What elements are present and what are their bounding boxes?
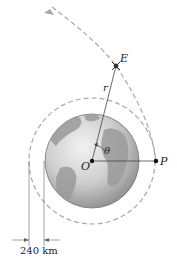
orbit-diagram: E r θ O P 240 km — [0, 0, 177, 266]
trajectory-arrow-icon — [44, 9, 54, 15]
spacecraft-icon — [112, 62, 120, 70]
point-o — [90, 159, 94, 163]
point-p — [154, 159, 158, 163]
label-theta: θ — [104, 145, 110, 156]
label-e: E — [119, 52, 128, 65]
label-o: O — [81, 160, 90, 173]
label-r: r — [103, 82, 109, 93]
altitude-label: 240 km — [20, 245, 58, 256]
label-p: P — [159, 155, 168, 168]
